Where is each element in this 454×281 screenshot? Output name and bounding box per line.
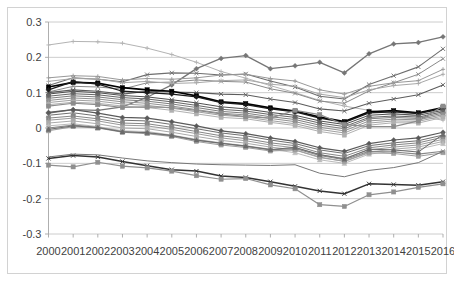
marker-plus xyxy=(46,79,50,83)
marker-plus xyxy=(71,39,75,43)
marker-square xyxy=(416,154,420,158)
marker-square xyxy=(268,183,272,187)
x-axis-label-2003: 2003 xyxy=(110,245,134,257)
marker-square xyxy=(342,204,346,208)
marker-square xyxy=(96,93,100,97)
x-axis-label-2007: 2007 xyxy=(209,245,233,257)
marker-plus xyxy=(441,67,445,71)
marker-diamond xyxy=(317,60,322,65)
marker-square xyxy=(46,94,50,98)
y-axis-label--0.3: -0.3 xyxy=(23,228,42,240)
marker-square xyxy=(145,105,149,109)
marker-diamond xyxy=(391,138,396,143)
marker-square xyxy=(318,112,322,116)
marker-square xyxy=(96,160,100,164)
marker-diamond xyxy=(219,56,224,61)
marker-square xyxy=(392,190,396,194)
marker-square xyxy=(293,123,297,127)
marker-square xyxy=(268,120,272,124)
marker-plus xyxy=(219,79,223,83)
marker-diamond xyxy=(416,135,421,140)
marker-square xyxy=(170,169,174,173)
series-markers xyxy=(46,153,445,195)
marker-square xyxy=(244,176,248,180)
marker-square xyxy=(367,124,371,128)
marker-diamond xyxy=(145,116,150,121)
chart-container: 0.30.20.10-0.1-0.2-0.3 20002001200220032… xyxy=(0,0,454,281)
series-line xyxy=(46,153,445,195)
marker-square xyxy=(46,163,50,167)
marker-square xyxy=(120,164,124,168)
x-axis-label-2011: 2011 xyxy=(308,245,332,257)
marker-plus xyxy=(194,60,198,64)
x-axis-label-2012: 2012 xyxy=(332,245,356,257)
marker-square xyxy=(416,119,420,123)
marker-square xyxy=(268,116,272,120)
marker-square xyxy=(441,104,445,108)
marker-square xyxy=(96,103,100,107)
series-layer xyxy=(46,34,446,208)
x-axis-label-2000: 2000 xyxy=(36,245,60,257)
marker-square xyxy=(244,115,248,119)
marker-plus xyxy=(194,76,198,80)
x-axis-label-2014: 2014 xyxy=(381,245,405,257)
y-axis-label--0.1: -0.1 xyxy=(23,157,42,169)
y-axis-label--0.2: -0.2 xyxy=(23,193,42,205)
marker-square xyxy=(392,124,396,128)
marker-diamond xyxy=(169,119,174,124)
marker-diamond xyxy=(293,63,298,68)
marker-diamond xyxy=(95,111,100,116)
marker-square xyxy=(441,182,445,186)
marker-diamond xyxy=(46,110,51,115)
marker-square xyxy=(120,105,124,109)
x-axis-label-2004: 2004 xyxy=(135,245,159,257)
marker-square xyxy=(293,108,297,112)
marker-square xyxy=(219,177,223,181)
x-axis-label-2015: 2015 xyxy=(406,245,430,257)
marker-diamond xyxy=(268,66,273,71)
marker-plus xyxy=(416,81,420,85)
line-chart: 0.30.20.10-0.1-0.2-0.3 20002001200220032… xyxy=(0,0,454,281)
x-axis-label-2005: 2005 xyxy=(160,245,184,257)
marker-diamond xyxy=(416,40,421,45)
marker-x xyxy=(441,47,445,51)
y-axis-label-0: 0 xyxy=(35,122,41,134)
marker-plus xyxy=(46,43,50,47)
marker-plus xyxy=(170,52,174,56)
marker-plus xyxy=(293,79,297,83)
x-axis-label-2009: 2009 xyxy=(258,245,282,257)
series-path xyxy=(49,156,444,194)
marker-plus xyxy=(96,40,100,44)
marker-square xyxy=(441,115,445,119)
marker-diamond xyxy=(391,41,396,46)
marker-square xyxy=(416,185,420,189)
marker-diamond xyxy=(120,115,125,120)
marker-square xyxy=(392,121,396,125)
y-axis-tick-labels: 0.30.20.10-0.1-0.2-0.3 xyxy=(23,16,42,240)
marker-square xyxy=(219,112,223,116)
marker-square xyxy=(367,193,371,197)
marker-square xyxy=(71,92,75,96)
marker-square xyxy=(145,97,149,101)
marker-square xyxy=(342,122,346,126)
marker-square xyxy=(318,203,322,207)
x-axis-label-2013: 2013 xyxy=(357,245,381,257)
marker-square xyxy=(71,165,75,169)
marker-plus xyxy=(145,46,149,50)
marker-square xyxy=(244,109,248,113)
x-axis-label-2002: 2002 xyxy=(86,245,110,257)
marker-plus xyxy=(120,41,124,45)
marker-square xyxy=(342,133,346,137)
x-axis-label-2001: 2001 xyxy=(61,245,85,257)
marker-square xyxy=(170,105,174,109)
marker-square xyxy=(71,101,75,105)
marker-square xyxy=(293,187,297,191)
x-axis-tick-labels: 2000200120022003200420052006200720082009… xyxy=(36,245,454,257)
marker-square xyxy=(318,129,322,133)
marker-square xyxy=(194,108,198,112)
x-axis-label-2016: 2016 xyxy=(431,245,454,257)
marker-square xyxy=(145,166,149,170)
marker-plus xyxy=(318,88,322,92)
y-axis-label-0.2: 0.2 xyxy=(26,51,41,63)
marker-square xyxy=(46,104,50,108)
